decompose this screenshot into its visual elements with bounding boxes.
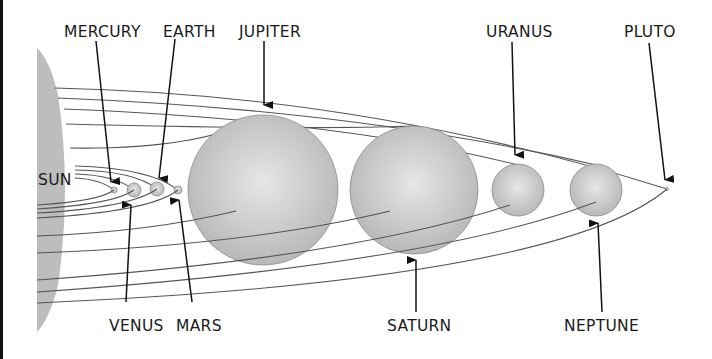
label-venus: VENUS	[109, 317, 164, 335]
label-jupiter: JUPITER	[238, 23, 301, 41]
label-uranus: URANUS	[486, 23, 553, 41]
label-neptune: NEPTUNE	[564, 317, 639, 335]
diagram-canvas: SUN MERCURY EARTH JUPITER URANUS PLUTO V…	[0, 0, 712, 359]
venus-arrow	[126, 205, 131, 302]
label-saturn: SATURN	[387, 317, 452, 335]
jupiter	[188, 115, 338, 265]
label-mercury: MERCURY	[64, 23, 141, 41]
pluto-arrow	[649, 43, 665, 180]
label-pluto: PLUTO	[624, 23, 676, 41]
uranus-arrow	[512, 42, 515, 155]
mars-arrow	[179, 200, 192, 302]
solar-system-diagram: SUN MERCURY EARTH JUPITER URANUS PLUTO V…	[0, 0, 712, 359]
sun	[37, 48, 65, 332]
left-frame-border	[0, 0, 3, 359]
neptune-arrow	[598, 223, 602, 312]
label-earth: EARTH	[163, 23, 216, 41]
saturn	[350, 126, 478, 254]
label-sun: SUN	[38, 171, 72, 189]
label-mars: MARS	[176, 317, 222, 335]
earth-arrow	[159, 39, 175, 178]
